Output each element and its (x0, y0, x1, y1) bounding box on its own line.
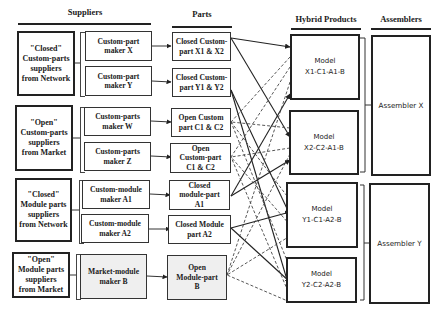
maker-b: Market-module maker B (80, 254, 147, 299)
supplier-group-closed-custom-parts: "Closed" Custom-parts suppliers from Net… (17, 31, 75, 96)
part-closed-a2: Closed Module part A2 (168, 215, 231, 244)
part-open-c1-c2-z: Open Custom-part C1 & C2 (170, 143, 231, 173)
part-closed-a1: Closed module-part A1 (169, 180, 230, 210)
part-closed-y1-y2: Closed Custom- part Y1 & Y2 (172, 68, 231, 97)
product-x2-c2-a1-b: Model X2-C2-A1-B (289, 110, 359, 175)
part-closed-x1-x2: Closed Custom- part X1 & X2 (172, 32, 231, 61)
maker-w: Custom-parts maker W (84, 107, 151, 136)
product-x1-c1-a1-b: Model X1-C1-A1-B (290, 34, 360, 100)
part-open-b: Open Module-part B (167, 255, 227, 300)
product-y1-c1-a2-b: Model Y1-C1-A2-B (286, 182, 358, 248)
assembler-x: Assembler X (371, 35, 431, 176)
supplier-group-open-custom-parts: "Open" Custom-parts suppliers from Marke… (15, 105, 73, 171)
assembler-y: Assembler Y (369, 183, 430, 304)
maker-z: Custom-parts maker Z (84, 142, 151, 171)
maker-y: Custom-part maker Y (85, 66, 152, 96)
maker-a2: Custom-module maker A2 (81, 214, 149, 243)
supplier-group-closed-module-parts: "Closed" Module parts suppliers from Net… (15, 178, 72, 242)
supplier-group-open-module-parts: "Open" Module parts suppliers from Marke… (12, 252, 70, 298)
maker-x: Custom-part maker X (85, 31, 152, 61)
maker-a1: Custom-module maker A1 (82, 180, 150, 209)
product-y2-c2-a2-b: Model Y2-C2-A2-B (286, 257, 357, 303)
part-open-c1-c2-w: Open Custom part C1 & C2 (171, 108, 231, 137)
